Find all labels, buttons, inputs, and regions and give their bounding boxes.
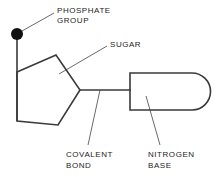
- covalent-bond-label-line1: COVALENT: [66, 150, 113, 159]
- covalent-bond-label-line2: BOND: [66, 161, 91, 170]
- phosphate-group-dot: [11, 28, 23, 40]
- covalent-bond-leader-line: [88, 90, 100, 145]
- nucleotide-diagram: PHOSPHATE GROUP SUGAR COVALENT BOND NITR…: [0, 0, 223, 177]
- phosphate-group-label-line1: PHOSPHATE: [57, 6, 111, 15]
- sugar-label: SUGAR: [110, 40, 141, 49]
- nitrogen-base-label-line1: NITROGEN: [148, 150, 195, 159]
- phosphate-leader-line: [22, 13, 54, 31]
- sugar-pentagon: [17, 55, 80, 125]
- nitrogen-base-shape: [130, 73, 211, 110]
- nucleotide-diagram-canvas: PHOSPHATE GROUP SUGAR COVALENT BOND NITR…: [0, 0, 223, 177]
- nitrogen-base-leader-line: [146, 96, 160, 145]
- nitrogen-base-label-line2: BASE: [148, 161, 172, 170]
- phosphate-group-label-line2: GROUP: [57, 16, 89, 25]
